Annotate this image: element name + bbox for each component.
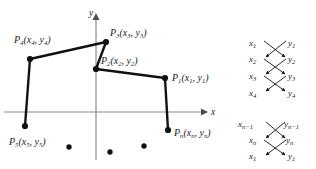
- figure-svg: x y P4(x4, y4) P3(x3, y3) P2(x2, y2): [0, 0, 316, 169]
- crossing-diagram-top: x1 y1 x2 y2 x3 y3 x4 y4: [248, 38, 296, 99]
- point-labels-group: P4(x4, y4) P3(x3, y3) P2(x2, y2) P1(x1, …: [8, 27, 211, 148]
- vertex-P3: [103, 39, 109, 45]
- point-label-P4: P4(x4, y4): [13, 34, 51, 46]
- ellipsis-dots-group: [66, 143, 146, 154]
- ellipsis-dot: [141, 143, 146, 148]
- x-axis-label: x: [210, 107, 216, 117]
- perm-label-left-n: xn: [248, 135, 257, 146]
- crossing-line: [264, 41, 285, 57]
- crossing-line: [264, 76, 285, 91]
- perm-label-left-n1: xn−1: [237, 119, 253, 130]
- perm-label-right-3: y4: [287, 88, 296, 99]
- perm-label-right-n1: yn−1: [283, 119, 299, 130]
- vertex-P5: [22, 123, 28, 129]
- perm-label-right-1: y2: [287, 54, 296, 65]
- perm-label-left-1: x2: [248, 54, 257, 65]
- perm-label-right-1b: y1: [287, 151, 295, 162]
- ellipsis-dot: [66, 144, 71, 149]
- point-label-P5: P5(x5, y5): [8, 136, 46, 148]
- perm-label-right-2: y3: [287, 71, 296, 82]
- vertex-Pn: [165, 127, 171, 133]
- crossing-line: [266, 41, 286, 57]
- figure-canvas: x y P4(x4, y4) P3(x3, y3) P2(x2, y2): [0, 0, 316, 169]
- perm-label-right-0: y1: [287, 38, 295, 49]
- point-label-P2: P2(x2, y2): [100, 55, 138, 67]
- crossing-line: [264, 59, 285, 74]
- crossing-diagram-bottom: xn−1 yn−1 xn yn x1 y1: [237, 119, 299, 162]
- vertex-P4: [27, 56, 33, 62]
- perm-label-right-n: yn: [285, 135, 294, 146]
- point-label-P1: P1(x1, y1): [171, 72, 209, 84]
- ellipsis-dot: [107, 149, 112, 154]
- crossing-line: [264, 140, 285, 155]
- perm-label-left-3: x4: [248, 88, 257, 99]
- perm-label-left-0: x1: [248, 38, 256, 49]
- perm-label-left-1b: x1: [248, 151, 256, 162]
- vertex-P2: [93, 66, 99, 72]
- crossing-line: [266, 140, 286, 155]
- perm-label-left-2: x3: [248, 71, 257, 82]
- crossing-line: [266, 59, 286, 74]
- y-axis-label: y: [88, 8, 94, 18]
- crossing-line: [266, 76, 286, 91]
- point-label-Pn: Pn(xn, yn): [173, 127, 211, 139]
- point-label-P3: P3(x3, y3): [109, 27, 147, 39]
- vertex-P1: [162, 75, 168, 81]
